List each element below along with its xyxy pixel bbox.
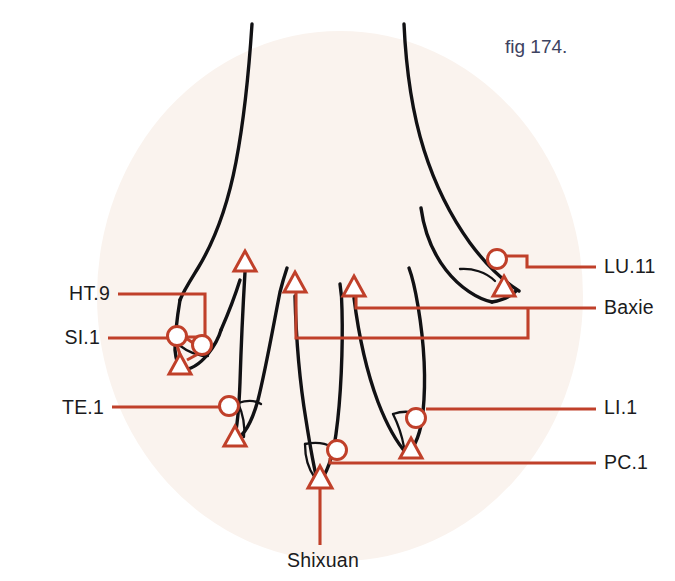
label-lu11: LU.11 [604,255,656,277]
label-ht9: HT.9 [69,282,110,304]
marker-te1-circle[interactable] [220,397,239,416]
figure-caption: fig 174. [505,36,567,57]
marker-pc1-circle[interactable] [328,441,347,460]
label-te1: TE.1 [62,396,104,418]
marker-ht9-circle[interactable] [168,327,187,346]
acupuncture-hand-diagram: HT.9 SI.1 TE.1 LU.11 Baxie LI.1 PC.1 Shi… [0,0,675,581]
label-baxie: Baxie [604,296,654,318]
label-shixuan: Shixuan [287,549,359,571]
label-pc1: PC.1 [604,451,648,473]
figure-container: HT.9 SI.1 TE.1 LU.11 Baxie LI.1 PC.1 Shi… [0,0,675,581]
label-si1: SI.1 [65,326,101,348]
marker-si1-circle[interactable] [193,336,212,355]
marker-lu11-circle[interactable] [488,250,507,269]
marker-li1-circle[interactable] [407,409,426,428]
label-li1: LI.1 [604,396,637,418]
